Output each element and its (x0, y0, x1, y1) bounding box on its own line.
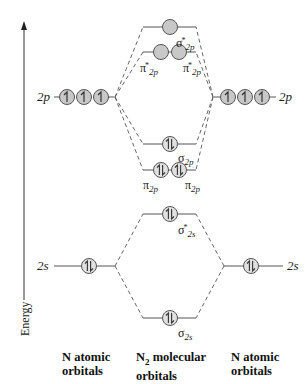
right-footer-label: N atomic orbitals (231, 350, 279, 378)
energy-axis (21, 21, 27, 300)
energy-axis-label: Energy (18, 302, 33, 336)
label-pi-2p-right: π2p (185, 179, 200, 195)
arrow-up-icon (21, 21, 27, 30)
left-2p-level (54, 90, 114, 105)
middle-footer-label: N2 molecular orbitals (136, 350, 206, 383)
label-pi-star-2p-right: π*2p (183, 60, 201, 78)
right-2s-label: 2s (287, 258, 299, 274)
mo-sigma-2p (143, 137, 196, 152)
mo-sigma-star-2s (143, 207, 196, 222)
label-sigma-2s: σ2s (178, 327, 192, 343)
right-2s-level (224, 259, 283, 274)
label-sigma-2p: σ2p (178, 152, 193, 168)
mo-sigma-star-2p (143, 20, 196, 35)
left-2s-label: 2s (37, 258, 49, 274)
left-footer-label: N atomic orbitals (62, 350, 110, 378)
left-2s-level (54, 259, 115, 274)
label-sigma-star-2s: σ*2s (178, 222, 195, 240)
right-2p-label: 2p (279, 89, 292, 105)
label-sigma-star-2p: σ*2p (176, 35, 194, 53)
label-pi-star-2p-left: π*2p (140, 60, 158, 78)
left-2p-label: 2p (37, 89, 50, 105)
label-pi-2p-left: π2p (143, 179, 158, 195)
right-2p-level (214, 90, 276, 105)
correlation-lines (115, 27, 224, 318)
mo-sigma-2s (143, 311, 196, 326)
